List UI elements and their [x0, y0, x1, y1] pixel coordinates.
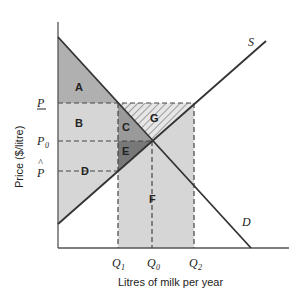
surplus-diagram: A B C D E F G S D P P 0 P ^ Q 1 Q 0 Q 2 … — [0, 0, 306, 305]
region-d — [58, 141, 118, 224]
price-floor-label: P — [36, 96, 45, 110]
p0-sub: 0 — [45, 141, 49, 150]
x-axis-title: Litres of milk per year — [118, 276, 223, 288]
q2-label: Q — [189, 256, 198, 270]
p-hat-label: P — [36, 166, 45, 180]
region-b-label: B — [75, 117, 83, 129]
region-d-label: D — [81, 165, 89, 177]
q2-sub: 2 — [198, 263, 202, 272]
region-b — [58, 103, 118, 141]
region-f-label: F — [149, 193, 156, 205]
p0-label: P — [36, 134, 45, 148]
region-g-label: G — [150, 112, 159, 124]
q1-label: Q — [112, 256, 121, 270]
y-axis-title: Price ($/litre) — [13, 126, 25, 188]
q1-sub: 1 — [121, 263, 125, 272]
region-c-label: C — [122, 121, 130, 133]
supply-label: S — [248, 35, 254, 49]
q0-sub: 0 — [156, 263, 160, 272]
q0-label: Q — [147, 256, 156, 270]
demand-label: D — [241, 215, 251, 229]
region-e-label: E — [122, 145, 129, 157]
region-a-label: A — [75, 81, 83, 93]
